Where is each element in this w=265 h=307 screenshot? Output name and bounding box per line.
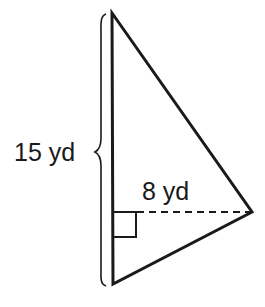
brace-icon bbox=[95, 14, 106, 286]
base-label: 15 yd bbox=[14, 138, 75, 166]
right-angle-marker bbox=[113, 212, 136, 237]
triangle bbox=[112, 13, 252, 284]
triangle-diagram: 15 yd 8 yd bbox=[0, 0, 265, 307]
height-label: 8 yd bbox=[142, 177, 189, 205]
